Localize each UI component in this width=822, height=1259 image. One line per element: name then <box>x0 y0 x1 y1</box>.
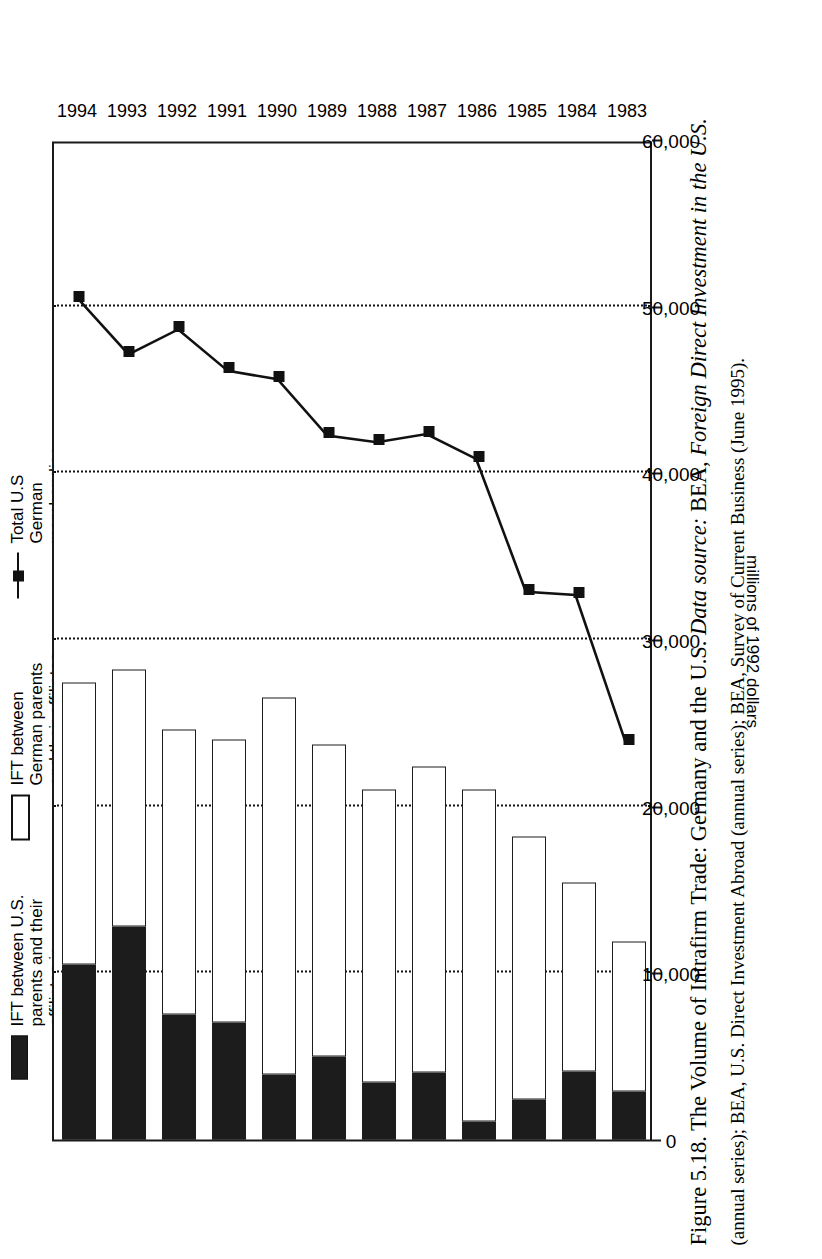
figure-caption-line2: (annual series); BEA, U.S. Direct Invest… <box>726 13 751 1245</box>
chart-legend: IFT between U.S. parents and their affil… <box>8 179 48 1079</box>
caption-source-3-tail: (June 1995). <box>727 357 748 452</box>
caption-source-label: Data source: <box>686 517 711 634</box>
category-axis-label: 1983 <box>607 100 647 121</box>
category-axis-label: 1991 <box>207 100 247 121</box>
chart-plot-area <box>52 141 652 1141</box>
dark-square-swatch-icon <box>11 1035 28 1079</box>
caption-source-1: BEA, <box>686 461 711 512</box>
line-marker <box>374 434 385 445</box>
white-square-swatch-icon <box>11 794 30 840</box>
caption-title: The Volume of Intrafirm Trade: Germany a… <box>686 640 711 1130</box>
line-marker <box>624 734 635 745</box>
category-axis-label: 1988 <box>357 100 397 121</box>
category-axis-label: 1993 <box>107 100 147 121</box>
line-marker <box>324 427 335 438</box>
value-axis-tick <box>652 1139 661 1141</box>
caption-source-1-italic: Foreign Direct Investment in the U.S. <box>686 118 711 456</box>
line-marker-swatch-icon <box>11 552 26 598</box>
line-marker <box>424 425 435 436</box>
caption-number: Figure 5.18. <box>686 1136 711 1245</box>
caption-source-3-italic: Survey of Current Business <box>727 457 748 667</box>
line-marker <box>174 320 185 331</box>
category-axis-label: 1992 <box>157 100 197 121</box>
figure-5-18: IFT between U.S. parents and their affil… <box>0 0 822 1259</box>
line-marker <box>524 584 535 595</box>
category-axis-label: 1987 <box>407 100 447 121</box>
line-marker <box>574 587 585 598</box>
category-axis-label: 1986 <box>457 100 497 121</box>
line-marker <box>474 450 485 461</box>
figure-caption: Figure 5.18. The Volume of Intrafirm Tra… <box>684 13 714 1245</box>
value-axis-tick-label: 0 <box>666 1130 677 1152</box>
category-axis-label: 1984 <box>557 100 597 121</box>
category-axis-label: 1994 <box>57 100 97 121</box>
line-marker <box>274 370 285 381</box>
caption-source-2-tail: (annual series); BEA, <box>727 671 748 835</box>
category-axis-label: 1985 <box>507 100 547 121</box>
line-marker <box>74 290 85 301</box>
caption-source-1-tail: (annual series); BEA, <box>727 1081 748 1245</box>
rotated-book-page: IFT between U.S. parents and their affil… <box>0 0 822 1259</box>
total-trade-line <box>79 299 625 741</box>
caption-source-2-italic: U.S. Direct Investment Abroad <box>727 840 748 1076</box>
category-axis-label: 1989 <box>307 100 347 121</box>
category-axis-label: 1990 <box>257 100 297 121</box>
line-series-layer <box>54 143 650 1139</box>
line-marker <box>224 362 235 373</box>
line-marker <box>124 345 135 356</box>
